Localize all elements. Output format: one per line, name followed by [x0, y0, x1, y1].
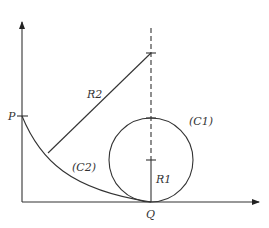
radius-r2-line [48, 53, 151, 153]
label-q: Q [146, 208, 155, 221]
label-c1: (C1) [189, 115, 213, 128]
label-r2: R2 [86, 88, 102, 101]
label-c2: (C2) [72, 161, 96, 174]
label-p: P [7, 110, 16, 123]
label-r1: R1 [155, 173, 171, 186]
diagram-canvas: P Q R2 R1 (C1) (C2) [0, 0, 269, 228]
curve-c2 [22, 116, 151, 202]
